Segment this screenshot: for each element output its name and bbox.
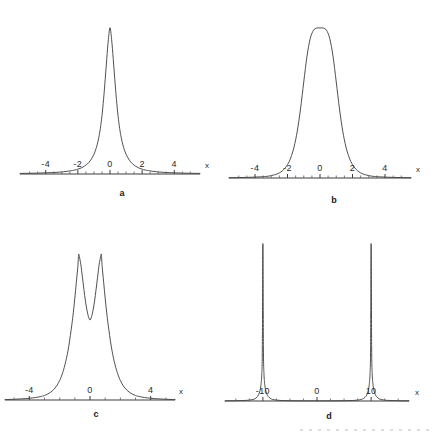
tick-label: -4 (41, 159, 50, 169)
tick-labels-d: -10010 (256, 386, 377, 396)
tick-label: -2 (283, 163, 292, 173)
axis-label-b: x (416, 165, 420, 174)
panel-c: -404 x c (0, 217, 218, 434)
panel-a: -4-2024 x a (0, 0, 218, 217)
tick-label: 4 (172, 159, 177, 169)
tick-label: 0 (317, 163, 322, 173)
panel-letter-a: a (119, 188, 125, 198)
tick-label: 4 (382, 163, 387, 173)
tick-label: -10 (256, 386, 270, 396)
curve-c (5, 254, 175, 399)
curve-b (229, 28, 411, 178)
panel-letter-d: d (326, 411, 332, 421)
tick-label: 10 (366, 386, 377, 396)
curve-d (225, 244, 409, 401)
panel-c-plot: -404 x c (0, 217, 218, 434)
panel-b: -4-2024 x b (219, 0, 437, 217)
tick-labels-c: -404 (25, 385, 154, 395)
axis-label-a: x (205, 161, 209, 170)
ticks-a (30, 170, 191, 174)
tick-label: -4 (251, 163, 260, 173)
tick-label: 0 (314, 386, 319, 396)
panel-d-plot: -10010 x d (219, 217, 437, 434)
panel-d: -10010 x d (219, 217, 437, 434)
ticks-c (14, 396, 166, 400)
panel-letter-c: c (93, 409, 98, 419)
tick-labels-b: -4-2024 (251, 163, 388, 173)
panel-a-plot: -4-2024 x a (0, 0, 218, 217)
tick-label: 0 (87, 385, 92, 395)
scan-artifact (300, 429, 432, 431)
tick-label: 2 (139, 159, 144, 169)
curve-a (20, 28, 200, 174)
panel-b-plot: -4-2024 x b (219, 0, 437, 217)
tick-label: 4 (148, 385, 153, 395)
axis-label-d: x (415, 388, 419, 397)
tick-label: -4 (25, 385, 34, 395)
tick-label: -2 (73, 159, 82, 169)
tick-label: 2 (350, 163, 355, 173)
tick-labels-a: -4-2024 (41, 159, 177, 169)
figure-root: -4-2024 x a -4-2024 x b -404 x c (0, 0, 437, 434)
tick-label: 0 (107, 159, 112, 169)
ticks-d (236, 397, 398, 401)
ticks-b (239, 174, 402, 178)
panel-letter-b: b (331, 195, 337, 205)
axis-label-c: x (179, 387, 183, 396)
